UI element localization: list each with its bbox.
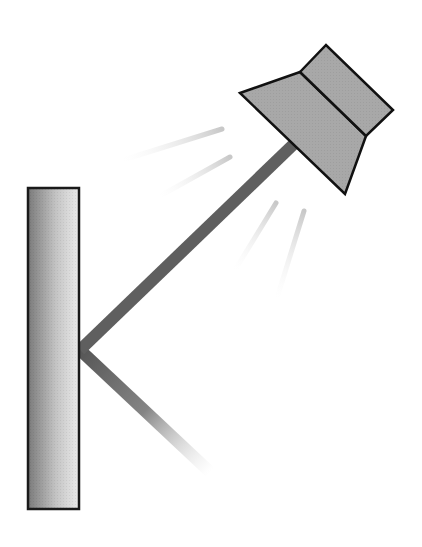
upper-arm xyxy=(80,140,298,350)
lamp-diagram xyxy=(0,0,422,547)
light-ray-2 xyxy=(160,157,230,196)
light-ray-4 xyxy=(277,211,304,298)
light-ray-3 xyxy=(235,203,276,270)
light-ray-1 xyxy=(123,129,222,160)
lower-arm xyxy=(80,350,210,472)
wall xyxy=(28,188,79,509)
